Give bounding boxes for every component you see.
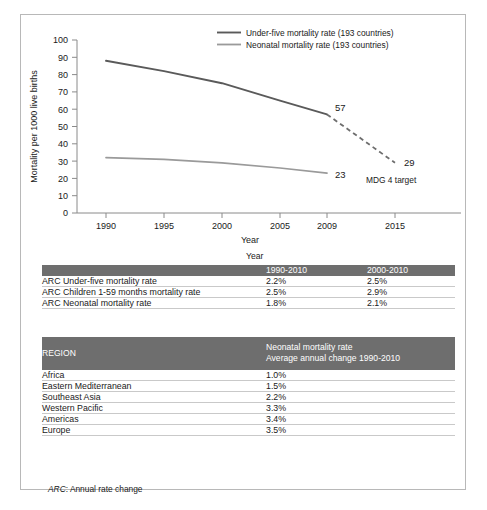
y-tick-label: 40 [58,139,68,149]
annotation-mdg-4-target: MDG 4 target [366,175,417,185]
x-tick-label: 2009 [317,221,337,231]
arc-header-blank [42,265,266,276]
y-tick-label: 10 [58,191,68,201]
arc-row-value-2: 2.1% [367,298,455,309]
table-row: Americas 3.4% [42,413,455,424]
table-row: Southeast Asia 2.2% [42,391,455,402]
region-table-header-row: REGION Neonatal mortality rate Average a… [42,337,455,370]
table-row: Eastern Mediterranean 1.5% [42,380,455,391]
region-header-line1: Neonatal mortality rate [266,342,352,352]
chart-legend: Under-five mortality rate (193 countries… [217,28,394,50]
region-row-value: 3.4% [266,413,455,424]
mortality-line-chart: 100 90 80 70 60 50 40 30 20 10 0 Mortali… [21,15,467,245]
table-row: ARC Children 1-59 months mortality rate … [42,287,455,298]
arc-row-value-1: 2.2% [266,276,367,287]
y-axis-tick-labels: 100 90 80 70 60 50 40 30 20 10 0 [53,35,68,218]
annotation-23: 23 [335,169,346,180]
arc-table-header-row: 1990-2010 2000-2010 [42,265,455,276]
arc-row-value-2: 2.9% [367,287,455,298]
figure-frame: 100 90 80 70 60 50 40 30 20 10 0 Mortali… [20,14,466,490]
arc-row-label: ARC Under-five mortality rate [42,276,266,287]
series-neonatal-line [106,158,327,174]
table-row: ARC Neonatal mortality rate 1.8% 2.1% [42,298,455,309]
footnote: ARC: Annual rate change [48,484,143,494]
x-axis-title: Year [241,235,259,245]
x-tick-label: 1990 [96,221,116,231]
region-row-value: 3.5% [266,424,455,435]
table-row: Western Pacific 3.3% [42,402,455,413]
x-tick-label: 1995 [154,221,174,231]
arc-table: 1990-2010 2000-2010 ARC Under-five morta… [42,265,455,309]
region-header-label: REGION [42,337,266,370]
region-row-label: Southeast Asia [42,391,266,402]
table-row: ARC Under-five mortality rate 2.2% 2.5% [42,276,455,287]
legend-label-neonatal: Neonatal mortality rate (193 countries) [246,40,389,50]
y-tick-label: 60 [58,105,68,115]
x-tick-label: 2000 [212,221,232,231]
x-axis-tick-labels: 1990 1995 2000 2005 2009 2015 [96,221,405,231]
arc-row-value-1: 1.8% [266,298,367,309]
y-tick-label: 80 [58,70,68,80]
arc-table-caption: Year [246,251,263,261]
y-tick-label: 50 [58,122,68,132]
arc-row-label: ARC Neonatal mortality rate [42,298,266,309]
y-tick-label: 30 [58,157,68,167]
y-axis-ticks [72,40,77,213]
region-row-label: Western Pacific [42,402,266,413]
arc-header-1990-2010: 1990-2010 [266,265,367,276]
region-table: REGION Neonatal mortality rate Average a… [42,337,455,436]
y-axis-title: Mortality per 1000 live births [29,70,39,183]
region-row-label: Americas [42,413,266,424]
series-mdg-target-dashed [327,114,395,162]
region-row-label: Africa [42,370,266,381]
region-row-label: Eastern Mediterranean [42,380,266,391]
region-row-label: Europe [42,424,266,435]
region-header-line2: Average annual change 1990-2010 [266,353,400,363]
y-tick-label: 0 [63,208,68,218]
region-row-value: 1.5% [266,380,455,391]
x-tick-label: 2015 [385,221,405,231]
y-tick-label: 20 [58,174,68,184]
region-row-value: 1.0% [266,370,455,381]
series-under-five-line [106,61,327,115]
annotation-57: 57 [335,102,346,113]
legend-label-under-five: Under-five mortality rate (193 countries… [246,28,394,38]
footnote-abbrev: ARC [48,484,66,494]
region-row-value: 2.2% [266,391,455,402]
region-row-value: 3.3% [266,402,455,413]
arc-row-value-1: 2.5% [266,287,367,298]
table-row: Africa 1.0% [42,370,455,381]
y-tick-label: 70 [58,87,68,97]
y-tick-label: 90 [58,53,68,63]
y-tick-label: 100 [53,35,68,45]
arc-row-value-2: 2.5% [367,276,455,287]
region-header-value: Neonatal mortality rate Average annual c… [266,337,455,370]
arc-header-2000-2010: 2000-2010 [367,265,455,276]
x-axis-ticks [106,213,395,218]
table-row: Europe 3.5% [42,424,455,435]
annotation-29: 29 [404,157,415,168]
arc-row-label: ARC Children 1-59 months mortality rate [42,287,266,298]
footnote-text: : Annual rate change [66,484,143,494]
x-tick-label: 2005 [270,221,290,231]
